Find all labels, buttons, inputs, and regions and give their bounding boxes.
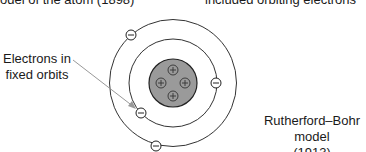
label-electrons-fixed-orbits: Electrons in fixed orbits <box>3 51 71 83</box>
electron-icon <box>126 30 136 40</box>
label-line: Electrons in <box>3 51 71 67</box>
pointer-arrow <box>73 60 136 109</box>
label-rutherford-bohr-model: Rutherford–Bohr model (1913) <box>258 113 366 152</box>
electron-icon <box>151 141 161 151</box>
label-line: (1913) <box>258 145 366 152</box>
electron-icon <box>136 108 146 118</box>
nucleus <box>149 59 197 107</box>
label-line: Rutherford–Bohr model <box>258 113 366 145</box>
electron-icon <box>211 78 221 88</box>
label-line: fixed orbits <box>3 67 71 83</box>
